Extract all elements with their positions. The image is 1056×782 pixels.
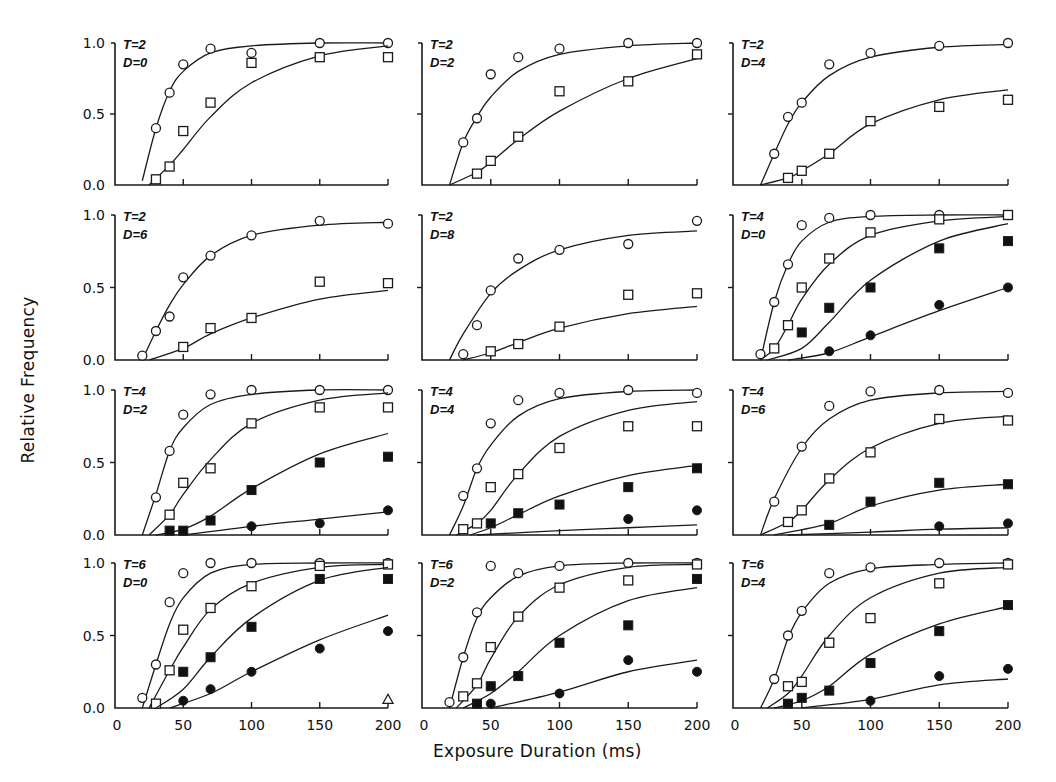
fit-curve xyxy=(761,44,1009,185)
fit-curve xyxy=(149,564,388,708)
data-point-open-square xyxy=(797,677,806,686)
panel-label-D: D=6 xyxy=(123,227,148,242)
panel-label-T: T=2 xyxy=(123,37,147,52)
panel-label-D: D=2 xyxy=(430,55,455,70)
data-point-open-circle xyxy=(555,561,564,570)
xtick-label: 100 xyxy=(857,717,884,733)
data-point-filled-circle xyxy=(866,331,875,340)
panel-label-D: D=6 xyxy=(741,402,766,417)
ytick-label: 0.0 xyxy=(83,527,105,543)
data-point-filled-square xyxy=(247,622,256,631)
data-point-open-square xyxy=(151,175,160,184)
data-point-open-square xyxy=(514,470,523,479)
data-point-open-circle xyxy=(624,240,633,249)
data-point-open-square xyxy=(555,322,564,331)
xtick-label: 0 xyxy=(113,717,122,733)
panel-label-T: T=2 xyxy=(430,209,454,224)
panel-label-D: D=4 xyxy=(741,55,766,70)
data-point-open-circle xyxy=(247,231,256,240)
panel-5: T=2D=8 xyxy=(417,209,702,360)
data-point-open-circle xyxy=(693,216,702,225)
panel-label-D: D=2 xyxy=(123,402,148,417)
xtick-label: 100 xyxy=(238,717,265,733)
data-point-filled-circle xyxy=(315,644,324,653)
data-point-filled-square xyxy=(486,519,495,528)
data-point-filled-square xyxy=(825,686,834,695)
ytick-label: 0.5 xyxy=(83,106,105,122)
data-point-filled-circle xyxy=(179,696,188,705)
panel-6: T=4D=0 xyxy=(728,209,1013,360)
data-point-open-square xyxy=(1004,211,1013,220)
data-point-open-circle xyxy=(165,312,174,321)
data-point-open-circle xyxy=(206,251,215,260)
data-point-open-square xyxy=(384,403,393,412)
fit-curve xyxy=(470,465,697,535)
fit-curve xyxy=(142,222,388,360)
data-point-filled-square xyxy=(206,516,215,525)
data-point-filled-square xyxy=(693,464,702,473)
data-point-open-circle xyxy=(473,608,482,617)
ytick-label: 0.5 xyxy=(83,628,105,644)
figure-grid: 0.00.51.0T=2D=0T=2D=2T=2D=40.00.51.0T=2D… xyxy=(0,0,1056,782)
fit-curve xyxy=(774,484,1008,535)
data-point-open-circle xyxy=(165,88,174,97)
panel-label-T: T=2 xyxy=(741,37,765,52)
data-point-open-circle xyxy=(866,563,875,572)
data-point-open-square xyxy=(486,156,495,165)
data-point-filled-circle xyxy=(384,627,393,636)
data-point-filled-circle xyxy=(1004,283,1013,292)
data-point-open-square xyxy=(179,478,188,487)
ytick-label: 1.0 xyxy=(83,35,105,51)
data-point-open-square xyxy=(825,254,834,263)
data-point-open-circle xyxy=(206,390,215,399)
data-point-filled-circle xyxy=(555,689,564,698)
data-point-filled-square xyxy=(1004,601,1013,610)
fit-curve xyxy=(463,588,697,708)
data-point-open-square xyxy=(693,50,702,59)
data-point-open-circle xyxy=(206,44,215,53)
panel-7: 0.00.51.0T=4D=2 xyxy=(83,382,393,543)
data-point-open-square xyxy=(459,692,468,701)
data-point-open-circle xyxy=(459,350,468,359)
data-point-open-square xyxy=(784,517,793,526)
data-point-open-square xyxy=(797,166,806,175)
data-point-open-square xyxy=(624,77,633,86)
data-point-open-square xyxy=(206,324,215,333)
data-point-open-square xyxy=(784,173,793,182)
data-point-open-circle xyxy=(555,44,564,53)
fit-curve xyxy=(477,525,697,535)
data-point-open-square xyxy=(165,666,174,675)
xtick-label: 150 xyxy=(926,717,953,733)
data-point-filled-circle xyxy=(935,522,944,531)
panel-label-D: D=8 xyxy=(430,227,455,242)
data-point-open-square xyxy=(693,422,702,431)
data-point-open-square xyxy=(797,506,806,515)
data-point-open-square xyxy=(247,582,256,591)
data-point-open-square xyxy=(473,679,482,688)
data-point-open-square xyxy=(624,422,633,431)
data-point-open-square xyxy=(247,419,256,428)
xtick-label: 100 xyxy=(546,717,573,733)
data-point-open-square xyxy=(486,483,495,492)
panel-label-T: T=2 xyxy=(123,209,147,224)
data-point-filled-circle xyxy=(486,699,495,708)
data-point-open-circle xyxy=(179,569,188,578)
data-point-open-square xyxy=(866,448,875,457)
data-point-open-circle xyxy=(247,48,256,57)
data-point-open-circle xyxy=(624,559,633,568)
data-point-open-circle xyxy=(247,386,256,395)
data-point-open-circle xyxy=(555,388,564,397)
data-point-open-circle xyxy=(138,351,147,360)
data-point-open-circle xyxy=(514,396,523,405)
data-point-open-circle xyxy=(784,631,793,640)
data-point-open-square xyxy=(459,525,468,534)
data-point-open-square xyxy=(486,347,495,356)
panel-label-D: D=0 xyxy=(123,55,148,70)
data-point-open-square xyxy=(624,290,633,299)
data-point-open-circle xyxy=(315,39,324,48)
ytick-label: 1.0 xyxy=(83,382,105,398)
panel-label-D: D=0 xyxy=(741,227,766,242)
fit-curve xyxy=(142,563,388,708)
data-point-open-square xyxy=(1004,416,1013,425)
data-point-open-circle xyxy=(555,245,564,254)
